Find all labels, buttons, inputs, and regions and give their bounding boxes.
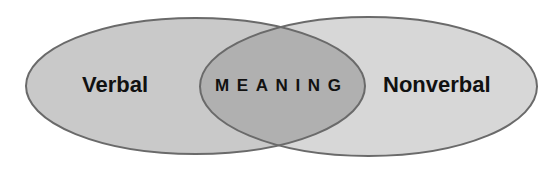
meaning-label: MEANING bbox=[215, 77, 348, 94]
verbal-label: Verbal bbox=[82, 74, 148, 96]
nonverbal-label: Nonverbal bbox=[383, 74, 491, 96]
venn-diagram: Verbal MEANING Nonverbal bbox=[0, 0, 558, 169]
